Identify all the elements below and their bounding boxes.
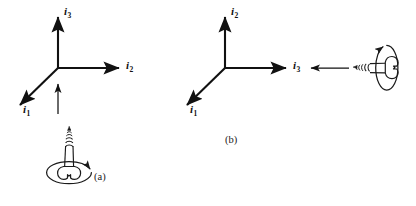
axis-label-i1-b-base: i <box>190 103 193 115</box>
diagram-vector-layer <box>0 0 416 206</box>
axis-label-i3-b: i3 <box>293 60 300 71</box>
axis-label-i2: i2 <box>126 60 133 71</box>
screw-vertical <box>47 126 92 183</box>
axis-label-i1-subscript: 1 <box>27 109 31 118</box>
axis-label-i2-b: i2 <box>231 6 238 17</box>
panel-b-axes <box>187 17 286 105</box>
axis-label-i2-b-base: i <box>231 5 234 17</box>
panel-caption-a: (a) <box>94 172 106 183</box>
axis-label-i1: i1 <box>23 104 30 115</box>
axis-label-i3-b-base: i <box>293 59 296 71</box>
panel-a-axes <box>20 17 119 105</box>
axis-label-i2-subscript: 2 <box>130 65 134 74</box>
axis-label-i3: i3 <box>64 6 71 17</box>
axis-label-i2-b-subscript: 2 <box>235 11 239 20</box>
axis-label-i3-subscript: 3 <box>68 11 72 20</box>
axis-label-i1-b-subscript: 1 <box>194 109 198 118</box>
axis-label-i1-base: i <box>23 103 26 115</box>
axis-label-i1-b: i1 <box>190 104 197 115</box>
panel-a-group <box>20 17 119 184</box>
panel-caption-b: (b) <box>225 135 237 146</box>
screw-horizontal <box>353 45 398 90</box>
axis-label-i2-base: i <box>126 59 129 71</box>
axis-i1-line <box>187 68 225 105</box>
axis-i1-line <box>20 68 58 105</box>
axis-label-i3-base: i <box>64 5 67 17</box>
figure-canvas: i3 i2 i1 (a) i2 i3 i1 (b) <box>0 0 416 206</box>
axis-label-i3-b-subscript: 3 <box>297 65 301 74</box>
